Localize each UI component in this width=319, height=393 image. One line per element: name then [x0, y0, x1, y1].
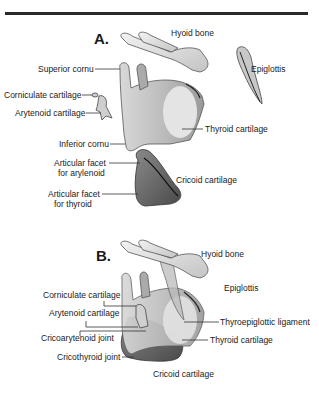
label-epiglottis-b: Epiglottis [224, 283, 259, 293]
label-corniculate-cartilage-a: Corniculate cartilage [4, 90, 81, 100]
label-cricoarytenoid-joint: Cricoarytenoid joint [41, 333, 114, 343]
label-facet-thyroid-line2: for thyroid [54, 199, 92, 209]
label-thyroid-cartilage-b: Thyroid cartilage [210, 335, 273, 345]
label-epiglottis-a: Epiglottis [251, 64, 286, 74]
label-facet-arytenoid-line2: for arylenoid [58, 168, 105, 178]
label-cricoid-cartilage-a: Cricoid cartilage [176, 175, 237, 185]
epiglottis-a [237, 47, 262, 104]
label-superior-cornu: Superior cornu [38, 64, 94, 74]
label-arytenoid-cartilage-b: Arytenoid cartilage [49, 308, 119, 318]
label-facet-arytenoid-line1: Articular facet [54, 158, 106, 168]
thyroid-cartilage-b [122, 272, 204, 354]
panel-b-label: B. [96, 247, 111, 264]
label-cricoid-cartilage-b: Cricoid cartilage [153, 369, 214, 379]
label-thyroepiglottic-ligament: Thyroepiglottic ligament [220, 317, 310, 327]
label-arytenoid-cartilage-a: Arytenoid cartilage [15, 108, 85, 118]
panel-a-label: A. [94, 30, 109, 47]
label-hyoid-bone-b: Hyoid bone [201, 249, 244, 259]
thyroid-cartilage-a [120, 63, 204, 151]
label-thyroid-cartilage-a: Thyroid cartilage [205, 124, 268, 134]
label-corniculate-cartilage-b: Corniculate cartilage [43, 290, 120, 300]
label-hyoid-bone-a: Hyoid bone [171, 28, 214, 38]
arytenoid-a [92, 93, 112, 120]
cricoid-cartilage-a [135, 150, 181, 206]
label-cricothyroid-joint: Cricothyroid joint [57, 352, 120, 362]
label-facet-thyroid-line1: Articular facet [48, 189, 100, 199]
label-inferior-cornu: Inferior cornu [59, 139, 109, 149]
panel-b-art [121, 240, 208, 361]
hyoid-bone-a [121, 32, 208, 72]
